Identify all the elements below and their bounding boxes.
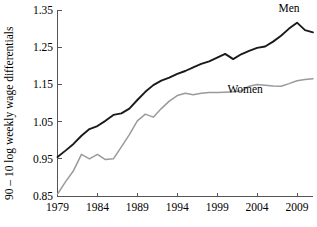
chart-axes	[58, 10, 314, 197]
series-label-women: Women	[227, 83, 263, 95]
series-line-women	[58, 79, 314, 194]
y-axis-title: 90 – 10 log weekly wage differentials	[3, 26, 16, 200]
chart-figure: 90 – 10 log weekly wage differentials 0.…	[0, 0, 317, 227]
x-tick-label: 1989	[126, 201, 149, 213]
y-tick-label: 1.25	[33, 41, 53, 53]
x-tick-label: 2004	[246, 201, 269, 213]
x-tick-label: 1999	[206, 201, 229, 213]
line-chart: 90 – 10 log weekly wage differentials 0.…	[0, 0, 317, 227]
series-label-men: Men	[279, 2, 300, 14]
y-tick-label: 1.35	[33, 4, 53, 16]
x-tick-label: 1984	[86, 201, 109, 213]
x-tick-label: 1979	[46, 201, 69, 213]
y-tick-label: 1.15	[33, 78, 53, 90]
series-line-men	[58, 23, 314, 157]
x-tick-label: 2009	[286, 201, 309, 213]
x-tick-label: 1994	[166, 201, 189, 213]
y-tick-label: 0.95	[33, 153, 53, 165]
x-axis-ticks: 1979198419891994199920042009	[46, 193, 309, 214]
y-axis-title-text: 90 – 10 log weekly wage differentials	[3, 26, 16, 200]
y-tick-label: 1.05	[33, 116, 53, 128]
chart-series-layer	[58, 23, 314, 194]
series-annotations: MenWomen	[227, 2, 299, 95]
